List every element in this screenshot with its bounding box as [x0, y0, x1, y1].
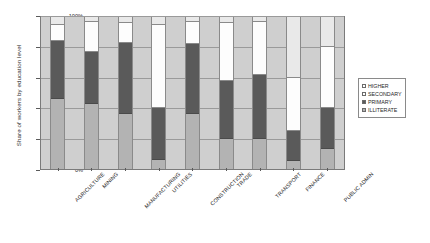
chart-legend: HIGHERSECONDARYPRIMARYILLITERATE	[358, 78, 406, 118]
legend-swatch-icon	[362, 108, 366, 112]
bar-segment-secondary	[186, 22, 199, 45]
legend-swatch-icon	[362, 92, 366, 96]
x-tick-mark	[192, 168, 193, 171]
bar-segment-higher	[51, 17, 64, 25]
bar-finance[interactable]	[286, 17, 301, 169]
bar-segment-secondary	[220, 23, 233, 81]
bar-manufacturing[interactable]	[118, 17, 133, 169]
bar-segment-primary	[253, 75, 266, 139]
bar-segment-primary	[220, 81, 233, 139]
bar-segment-primary	[321, 108, 334, 149]
bar-segment-higher	[287, 17, 300, 78]
bar-segment-illiterate	[85, 104, 98, 169]
bar-segment-secondary	[152, 25, 165, 109]
legend-item-primary[interactable]: PRIMARY	[362, 98, 401, 106]
bar-segment-higher	[321, 17, 334, 47]
bar-segment-illiterate	[186, 114, 199, 169]
legend-item-label: PRIMARY	[368, 99, 392, 105]
x-tick-mark	[327, 168, 328, 171]
bar-segment-primary	[51, 41, 64, 99]
legend-item-label: SECONDARY	[368, 91, 401, 97]
bar-mining[interactable]	[84, 17, 99, 169]
legend-item-label: HIGHER	[368, 83, 389, 89]
bar-segment-illiterate	[51, 99, 64, 169]
x-tick-mark	[91, 168, 92, 171]
bar-construction[interactable]	[185, 17, 200, 169]
bar-segment-primary	[85, 52, 98, 104]
bar-trade[interactable]	[219, 17, 234, 169]
x-tick-label: PUBLIC ADMIN	[343, 171, 375, 203]
bar-segment-secondary	[119, 23, 132, 43]
x-tick-label: TRANSPORT	[274, 171, 302, 199]
bar-segment-primary	[119, 43, 132, 114]
bar-segment-illiterate	[321, 149, 334, 169]
legend-item-secondary[interactable]: SECONDARY	[362, 90, 401, 98]
bar-segment-secondary	[51, 25, 64, 42]
stacked-bar-chart: Share of workers by education level 0%20…	[0, 0, 430, 243]
bar-segment-higher	[152, 17, 165, 25]
x-tick-mark	[58, 168, 59, 171]
legend-item-higher[interactable]: HIGHER	[362, 82, 401, 90]
x-tick-mark	[159, 168, 160, 171]
bar-segment-secondary	[85, 22, 98, 52]
plot-area	[40, 16, 345, 170]
legend-swatch-icon	[362, 84, 366, 88]
bar-segment-primary	[186, 44, 199, 114]
y-axis-title: Share of workers by education level	[15, 16, 22, 176]
bar-segment-secondary	[321, 47, 334, 108]
x-tick-mark	[260, 168, 261, 171]
x-tick-label: FINANCE	[305, 171, 326, 192]
bar-agriculture[interactable]	[50, 17, 65, 169]
x-tick-label: CONSTRUCTION	[210, 171, 246, 207]
bar-transport[interactable]	[252, 17, 267, 169]
bar-segment-illiterate	[253, 139, 266, 169]
x-axis-labels: AGRICULTUREMININGMANUFACTURINGUTILITIESC…	[40, 171, 345, 241]
bar-public-admin[interactable]	[320, 17, 335, 169]
x-tick-mark	[226, 168, 227, 171]
legend-item-label: ILLITERATE	[368, 107, 397, 113]
legend-swatch-icon	[362, 100, 366, 104]
x-tick-mark	[293, 168, 294, 171]
legend-item-illiterate[interactable]: ILLITERATE	[362, 106, 401, 114]
bar-segment-illiterate	[119, 114, 132, 169]
bar-segment-primary	[287, 131, 300, 161]
bar-segment-illiterate	[220, 139, 233, 169]
bar-segment-secondary	[253, 22, 266, 75]
bar-segment-secondary	[287, 78, 300, 131]
x-tick-label: AGRICULTURE	[73, 171, 105, 203]
bar-utilities[interactable]	[151, 17, 166, 169]
bar-segment-primary	[152, 108, 165, 160]
bar-group	[41, 17, 344, 169]
x-tick-mark	[125, 168, 126, 171]
